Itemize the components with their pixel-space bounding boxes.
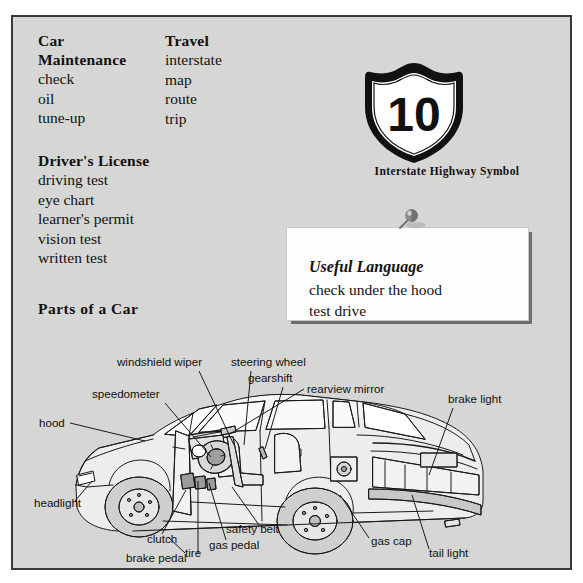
interstate-shield-icon: 10 [354, 61, 474, 181]
worksheet-page: Car Maintenance check oil tune-up Travel… [11, 15, 572, 570]
parts-of-a-car-heading: Parts of a Car [38, 300, 138, 318]
car-diagram-svg: windshield wiper steering wheel gearshif… [13, 335, 570, 568]
diagram-label-gas-pedal: gas pedal [209, 538, 259, 551]
vocab-column-car-maintenance: Car Maintenance check oil tune-up [38, 31, 126, 128]
useful-language-card: Useful Language check under the hood tes… [279, 206, 539, 336]
shield-number: 10 [387, 88, 440, 141]
car-cutaway-diagram: windshield wiper steering wheel gearshif… [13, 335, 570, 568]
card-surface: Useful Language check under the hood tes… [286, 227, 529, 321]
vocab-item: tune-up [38, 108, 126, 128]
vocab-item: eye chart [38, 190, 149, 210]
vocab-item: vision test [38, 229, 149, 249]
vocab-item: check [38, 69, 126, 89]
vocab-heading: Driver's License [38, 151, 149, 170]
diagram-label-clutch: clutch [147, 532, 177, 545]
diagram-label-brake-light: brake light [448, 392, 502, 405]
vocab-item: learner's permit [38, 209, 149, 229]
pushpin-icon [393, 206, 433, 236]
diagram-label-brake-pedal: brake pedal [126, 551, 187, 564]
vocab-item: oil [38, 89, 126, 109]
vocab-column-drivers-license: Driver's License driving test eye chart … [38, 151, 149, 268]
vocab-heading: Travel [165, 31, 222, 50]
vocab-heading-line2: Maintenance [38, 50, 126, 69]
card-line: test drive [309, 302, 366, 320]
vocab-column-travel: Travel interstate map route trip [165, 31, 222, 128]
diagram-label-safety-belt: safety belt [226, 522, 280, 535]
diagram-label-speedometer: speedometer [92, 387, 160, 400]
card-title: Useful Language [309, 258, 423, 276]
vocab-item: trip [165, 109, 222, 129]
vocab-item: interstate [165, 50, 222, 70]
diagram-label-gearshift: gearshift [248, 371, 293, 384]
diagram-label-rearview-mirror: rearview mirror [307, 382, 384, 395]
diagram-label-tail-light: tail light [429, 546, 469, 559]
vocab-item: map [165, 70, 222, 90]
diagram-label-hood: hood [39, 416, 65, 429]
vocab-item: written test [38, 248, 149, 268]
diagram-label-steering-wheel: steering wheel [231, 355, 306, 368]
card-line: check under the hood [309, 281, 442, 299]
shield-caption: Interstate Highway Symbol [357, 165, 537, 177]
vocab-item: route [165, 89, 222, 109]
vocab-item: driving test [38, 170, 149, 190]
vocab-heading: Car [38, 31, 126, 50]
diagram-label-tire: tire [185, 546, 201, 559]
diagram-label-gas-cap: gas cap [371, 534, 412, 547]
diagram-label-headlight: headlight [34, 496, 82, 509]
diagram-label-windshield-wiper: windshield wiper [116, 355, 202, 368]
